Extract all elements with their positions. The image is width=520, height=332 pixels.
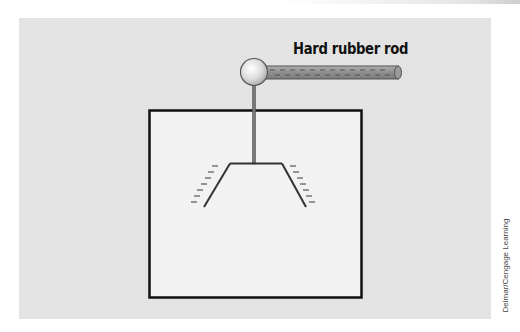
rod-label: Hard rubber rod (293, 40, 408, 58)
credit-text: Delmar/Cengage Learning (501, 211, 510, 321)
electroscope-diagram (0, 0, 520, 332)
metal-rod (253, 84, 256, 164)
hard-rubber-rod (262, 66, 402, 79)
metal-sphere (241, 59, 268, 86)
